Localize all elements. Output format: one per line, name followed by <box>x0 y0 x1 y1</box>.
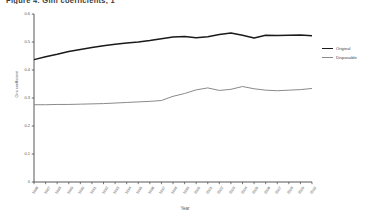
legend-swatch <box>322 57 333 58</box>
y-tick-label: 0.5 <box>14 39 30 44</box>
legend-label: Original <box>336 46 350 51</box>
y-tick-label: 0.4 <box>14 67 30 72</box>
legend-label: Disposable <box>336 55 357 60</box>
legend-item: Disposable <box>322 53 357 62</box>
legend-swatch <box>322 48 333 49</box>
chart-legend: OriginalDisposable <box>322 44 357 62</box>
y-tick-label: 0.6 <box>14 11 30 16</box>
y-tick-label: 0.1 <box>14 151 30 156</box>
y-tick-label: 0.3 <box>14 95 30 100</box>
y-tick-label: 0 <box>14 179 30 184</box>
chart-root: Figure 4. Gini coefficients, 1 Gini coef… <box>0 0 372 222</box>
y-axis-title: Gini coefficient <box>14 55 19 115</box>
legend-item: Original <box>322 44 357 53</box>
y-tick-label: 0.2 <box>14 123 30 128</box>
